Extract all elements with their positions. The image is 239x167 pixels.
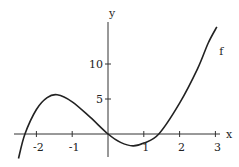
curve-label-f: f xyxy=(219,45,224,58)
x-tick-label: 2 xyxy=(178,141,185,154)
y-tick-label: 5 xyxy=(96,93,103,106)
x-tick-label: -1 xyxy=(69,141,80,154)
x-axis-label: x xyxy=(226,128,233,141)
x-tick-label: -2 xyxy=(33,141,44,154)
x-tick-label: 1 xyxy=(142,141,149,154)
function-plot: -2-1123510xyf xyxy=(0,0,239,167)
curve-f xyxy=(19,27,217,159)
labels: -2-1123510xyf xyxy=(33,7,233,154)
y-axis-label: y xyxy=(108,7,116,20)
y-tick-label: 10 xyxy=(89,58,103,71)
axes xyxy=(14,22,220,157)
x-tick-label: 3 xyxy=(214,141,221,154)
